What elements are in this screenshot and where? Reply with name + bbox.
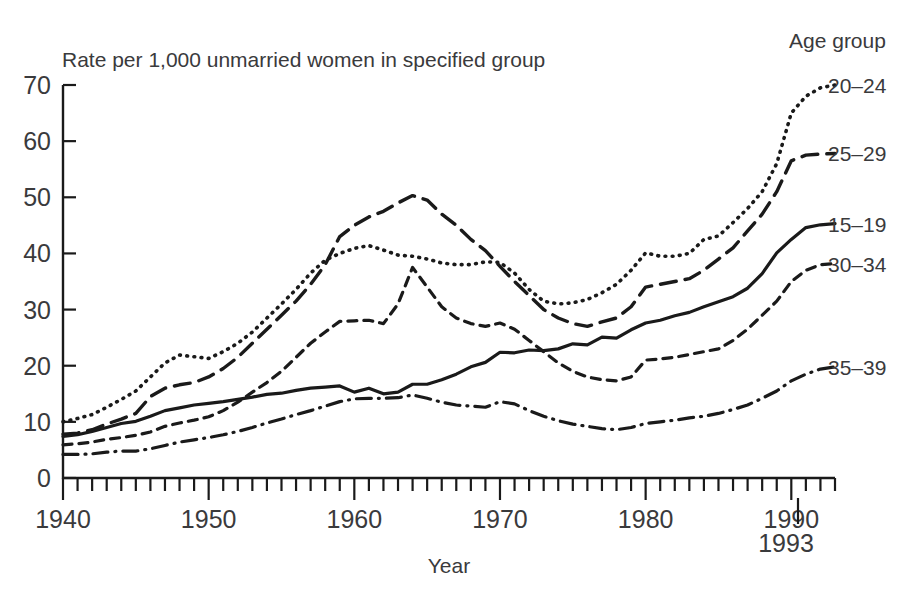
legend-entry-30-34[interactable]: 30–34 [828,253,887,276]
chart-container: Rate per 1,000 unmarried women in specif… [0,0,911,596]
y-axis-title: Rate per 1,000 unmarried women in specif… [62,48,545,71]
line-chart-figure: Rate per 1,000 unmarried women in specif… [0,0,911,596]
legend-entry-35-39[interactable]: 35–39 [828,356,886,379]
series-line-35-39 [63,367,835,455]
y-tick-label-10: 10 [23,408,51,436]
y-tick-label-50: 50 [23,183,51,211]
legend-label: 15–19 [828,213,886,236]
series-line-25-29 [63,153,835,434]
legend-entry-15-19[interactable]: 15–19 [828,213,886,236]
series-line-20-24 [63,85,835,422]
end-year-label: 1993 [758,529,814,557]
y-tick-label-60: 60 [23,127,51,155]
axis-frame [63,85,835,478]
y-axis-tick-labels: 010203040506070 [23,71,51,492]
x-tick-label-1950: 1950 [181,505,237,533]
x-tick-label-1940: 1940 [35,505,91,533]
y-tick-label-40: 40 [23,239,51,267]
series-layer [63,85,835,454]
legend-entry-20-24[interactable]: 20–24 [828,74,887,97]
legend-layer: 20–2425–2915–1930–3435–39 [828,74,887,379]
x-axis-ticks [63,478,835,500]
x-axis-tick-labels: 194019501960197019801990 [35,505,819,533]
x-tick-label-1960: 1960 [327,505,383,533]
legend-label: 20–24 [828,74,887,97]
x-tick-label-1980: 1980 [618,505,674,533]
y-tick-label-20: 20 [23,352,51,380]
y-tick-label-70: 70 [23,71,51,99]
y-tick-label-30: 30 [23,296,51,324]
x-axis-title: Year [428,554,470,577]
legend-entry-25-29[interactable]: 25–29 [828,142,886,165]
legend-label: 30–34 [828,253,887,276]
x-tick-label-1970: 1970 [472,505,528,533]
legend-label: 35–39 [828,356,886,379]
legend-label: 25–29 [828,142,886,165]
y-tick-label-0: 0 [37,464,51,492]
legend-heading: Age group [789,29,886,52]
